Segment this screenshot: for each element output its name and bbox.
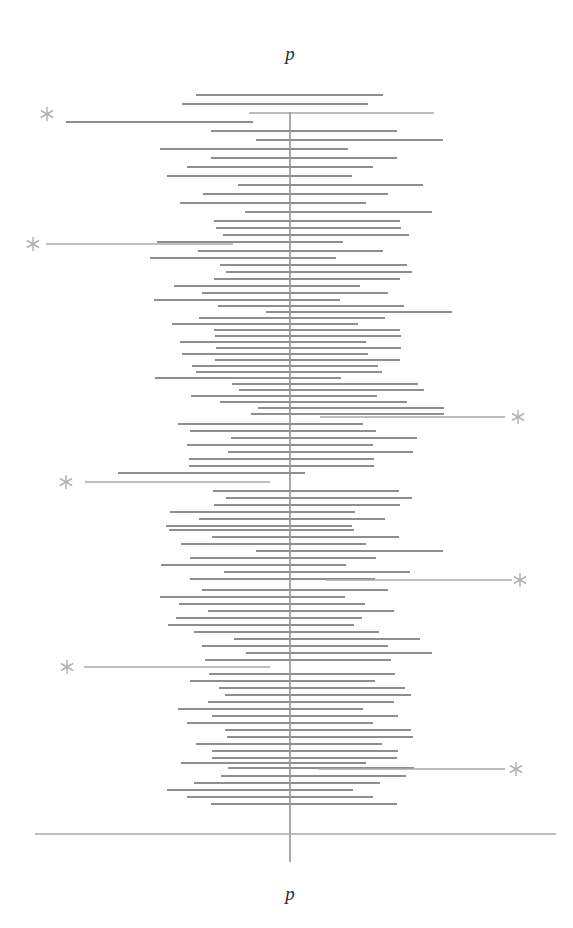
significance-markers	[27, 108, 525, 776]
plot-canvas	[0, 0, 573, 928]
asterisk-icon	[510, 763, 521, 776]
asterisk-icon	[41, 108, 52, 121]
asterisk-icon	[61, 661, 72, 674]
bottom-axis-label: p	[270, 884, 310, 903]
asterisk-icon	[27, 238, 38, 251]
asterisk-icon	[60, 476, 71, 489]
forest-plot-figure: p p	[0, 0, 573, 928]
confidence-interval-lines	[46, 95, 512, 804]
asterisk-icon	[512, 411, 523, 424]
asterisk-icon	[514, 574, 525, 587]
